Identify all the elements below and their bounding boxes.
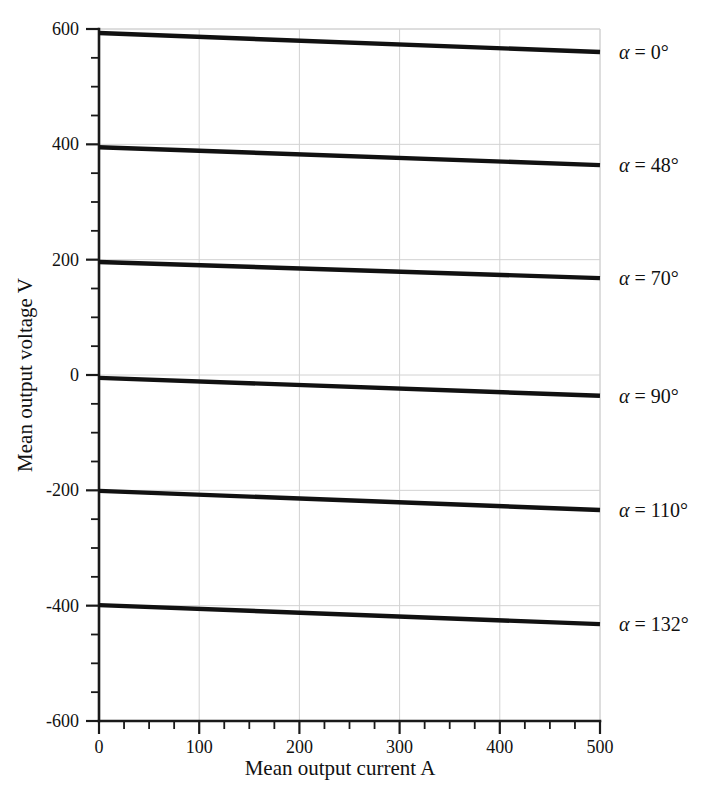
series-line-alpha-90 xyxy=(99,378,600,396)
series-label-value: = 70° xyxy=(635,267,679,289)
x-tick-label: 400 xyxy=(486,737,513,757)
series-label-value: = 132° xyxy=(635,613,689,635)
x-tick-label: 100 xyxy=(186,737,213,757)
mean-output-voltage-chart: -600-400-2000200400600 0100200300400500 … xyxy=(0,0,722,795)
alpha-symbol: α xyxy=(619,613,630,635)
series-labels: α= 0°α= 48°α= 70°α= 90°α= 110°α= 132° xyxy=(619,41,689,635)
series-label-alpha-110: α= 110° xyxy=(619,499,688,521)
series-label-value: = 110° xyxy=(635,499,689,521)
series-line-alpha-132 xyxy=(99,605,600,624)
alpha-symbol: α xyxy=(619,154,630,176)
x-axis-title: Mean output current A xyxy=(245,756,437,780)
chart-page: -600-400-2000200400600 0100200300400500 … xyxy=(0,0,722,795)
series-label-alpha-70: α= 70° xyxy=(619,267,679,289)
x-tick-label: 0 xyxy=(95,737,104,757)
alpha-symbol: α xyxy=(619,41,630,63)
series-line-alpha-110 xyxy=(99,491,600,510)
series-line-alpha-0 xyxy=(99,33,600,52)
y-tick-label: 400 xyxy=(52,134,79,154)
alpha-symbol: α xyxy=(619,385,630,407)
y-tick-label: -400 xyxy=(46,596,79,616)
alpha-symbol: α xyxy=(619,499,630,521)
y-tick-label: -600 xyxy=(46,711,79,731)
series-label-alpha-90: α= 90° xyxy=(619,385,679,407)
x-tick-label: 200 xyxy=(286,737,313,757)
alpha-symbol: α xyxy=(619,267,630,289)
y-tick-label: 600 xyxy=(52,19,79,39)
gridlines xyxy=(99,29,600,721)
data-series xyxy=(99,33,600,624)
y-tick-label: 0 xyxy=(70,365,79,385)
series-label-alpha-48: α= 48° xyxy=(619,154,679,176)
series-label-value: = 90° xyxy=(635,385,679,407)
x-tick-label: 300 xyxy=(386,737,413,757)
series-label-alpha-132: α= 132° xyxy=(619,613,689,635)
y-tick-label: 200 xyxy=(52,250,79,270)
y-tick-label: -200 xyxy=(46,480,79,500)
y-axis-title: Mean output voltage V xyxy=(13,278,37,472)
series-label-value: = 48° xyxy=(635,154,679,176)
x-tick-labels: 0100200300400500 xyxy=(95,737,614,757)
series-label-alpha-0: α= 0° xyxy=(619,41,669,63)
series-line-alpha-70 xyxy=(99,262,600,278)
series-label-value: = 0° xyxy=(635,41,669,63)
y-tick-labels: -600-400-2000200400600 xyxy=(46,19,79,731)
series-line-alpha-48 xyxy=(99,147,600,165)
x-tick-label: 500 xyxy=(587,737,614,757)
